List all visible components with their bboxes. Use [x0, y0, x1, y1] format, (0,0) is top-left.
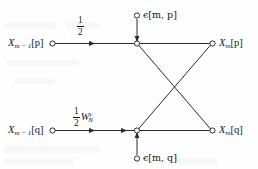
node-input-bottom [50, 128, 55, 133]
label-input-bottom-subscript: m − 1 [14, 129, 31, 137]
gain-top-denominator: 2 [77, 28, 84, 38]
label-output-top-index: [p] [230, 37, 242, 48]
node-error-bottom [134, 156, 139, 161]
label-input-bottom: Xm − 1[q] [8, 125, 43, 137]
label-input-top-index: [p] [31, 37, 43, 48]
node-input-top [50, 41, 55, 46]
figure-canvas: Xm − 1[p] Xm − 1[q] Xm[p] Xm[q] ϵ[m, p] … [0, 0, 258, 169]
label-input-top-subscript: m − 1 [14, 42, 31, 50]
butterfly-diagram [0, 0, 258, 169]
gain-bottom-denominator: 2 [73, 119, 80, 129]
label-error-top: ϵ[m, p] [143, 10, 177, 20]
node-butterfly-bottom [134, 128, 139, 133]
label-error-top-text: ϵ[m, p] [143, 9, 177, 20]
gain-bottom-numerator: 1 [73, 107, 80, 117]
label-input-top: Xm − 1[p] [8, 38, 43, 50]
node-butterfly-top [134, 41, 139, 46]
gain-bottom-fraction: 1 2 [73, 107, 80, 128]
label-output-top: Xm[p] [219, 38, 243, 50]
gain-bottom-twiddle: WrN [81, 111, 93, 124]
node-output-top [210, 41, 215, 46]
label-output-bottom: Xm[q] [219, 125, 243, 137]
node-output-bottom [210, 128, 215, 133]
label-error-bottom-text: ϵ[m, q] [143, 152, 177, 163]
gain-bottom-twiddle-subscript: N [88, 116, 93, 124]
gain-top: 1 2 [77, 16, 84, 37]
label-output-bottom-index: [q] [230, 124, 242, 135]
label-input-bottom-index: [q] [31, 124, 43, 135]
node-error-top [134, 13, 139, 18]
gain-bottom: 1 2 WrN [73, 107, 93, 128]
gain-top-numerator: 1 [77, 16, 84, 26]
label-error-bottom: ϵ[m, q] [143, 153, 177, 163]
